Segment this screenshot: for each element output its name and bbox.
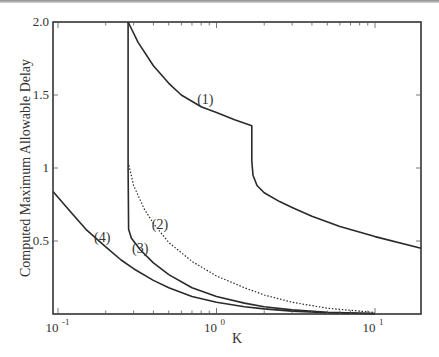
x-axis-label: K (232, 331, 242, 346)
x-tick-label: 10 (363, 320, 376, 335)
series-line-3 (128, 22, 375, 314)
x-tick-exponent: 0 (221, 317, 226, 327)
y-tick-label: 1 (43, 160, 50, 175)
y-tick-label: 0.5 (33, 233, 49, 248)
x-tick-label: 10 (204, 320, 217, 335)
series-label-2: (2) (152, 217, 169, 233)
y-tick-label: 1.5 (33, 87, 49, 102)
series-layer (53, 22, 421, 314)
x-tick-label: 10 (45, 320, 58, 335)
ticks-layer (53, 22, 421, 314)
labels-layer: 0.511.52.010-1100101(1)(2)(3)(4) (33, 14, 384, 335)
plot-frame (53, 22, 421, 314)
series-label-4: (4) (94, 230, 111, 246)
x-tick-exponent: 1 (379, 317, 384, 327)
series-label-1: (1) (197, 92, 214, 108)
x-tick-exponent: -1 (62, 317, 69, 327)
y-axis-label: Computed Maximum Allowable Delay (18, 59, 33, 277)
series-line-1 (128, 22, 421, 248)
series-line-2 (129, 165, 375, 312)
y-tick-label: 2.0 (33, 14, 49, 29)
chart: 0.511.52.010-1100101(1)(2)(3)(4) K Compu… (0, 0, 439, 357)
series-label-3: (3) (132, 241, 149, 257)
